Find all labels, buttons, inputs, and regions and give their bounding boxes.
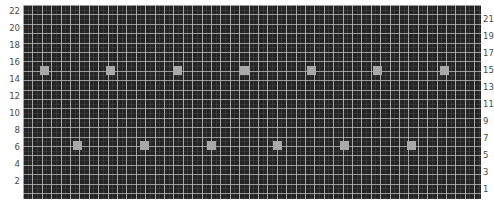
y-axis-left-tick-8: 8 bbox=[15, 126, 20, 135]
y-axis-right-tick-21: 21 bbox=[483, 15, 494, 24]
y-axis-left-tick-16: 16 bbox=[9, 58, 20, 67]
data-point-upper-7[interactable] bbox=[440, 66, 449, 75]
data-point-upper-3[interactable] bbox=[173, 66, 182, 75]
minor-gridlines bbox=[23, 5, 481, 199]
data-point-lower-4[interactable] bbox=[273, 141, 282, 150]
y-axis-right-tick-3: 3 bbox=[483, 168, 488, 177]
y-axis-right-tick-15: 15 bbox=[483, 66, 494, 75]
y-axis-right-tick-5: 5 bbox=[483, 151, 488, 160]
y-axis-left-tick-6: 6 bbox=[15, 143, 20, 152]
y-axis-right-tick-13: 13 bbox=[483, 83, 494, 92]
y-axis-right-tick-7: 7 bbox=[483, 134, 488, 143]
y-axis-right-tick-1: 1 bbox=[483, 185, 488, 194]
y-axis-left-tick-14: 14 bbox=[9, 75, 20, 84]
y-axis-right: 21191715131197531 bbox=[481, 0, 493, 204]
data-point-upper-5[interactable] bbox=[307, 66, 316, 75]
y-axis-left-tick-18: 18 bbox=[9, 41, 20, 50]
data-point-upper-2[interactable] bbox=[106, 66, 115, 75]
y-axis-left-tick-20: 20 bbox=[9, 24, 20, 33]
data-point-upper-4[interactable] bbox=[240, 66, 249, 75]
y-axis-left-tick-12: 12 bbox=[9, 92, 20, 101]
data-point-lower-5[interactable] bbox=[340, 141, 349, 150]
grid-texture-overlay bbox=[23, 5, 481, 199]
y-axis-right-tick-11: 11 bbox=[483, 100, 494, 109]
major-gridlines bbox=[23, 5, 481, 199]
plot-area[interactable] bbox=[23, 5, 481, 199]
y-axis-right-tick-9: 9 bbox=[483, 117, 488, 126]
data-point-lower-6[interactable] bbox=[407, 141, 416, 150]
y-axis-left: 222018161412108642 bbox=[0, 0, 23, 204]
y-axis-right-tick-19: 19 bbox=[483, 32, 494, 41]
data-point-upper-6[interactable] bbox=[373, 66, 382, 75]
data-point-lower-2[interactable] bbox=[140, 141, 149, 150]
data-point-upper-1[interactable] bbox=[40, 66, 49, 75]
y-axis-left-tick-4: 4 bbox=[15, 160, 20, 169]
y-axis-right-tick-17: 17 bbox=[483, 49, 494, 58]
y-axis-left-tick-2: 2 bbox=[15, 177, 20, 186]
y-axis-left-tick-22: 22 bbox=[9, 7, 20, 16]
y-axis-left-tick-10: 10 bbox=[9, 109, 20, 118]
data-point-lower-1[interactable] bbox=[73, 141, 82, 150]
data-point-lower-3[interactable] bbox=[207, 141, 216, 150]
